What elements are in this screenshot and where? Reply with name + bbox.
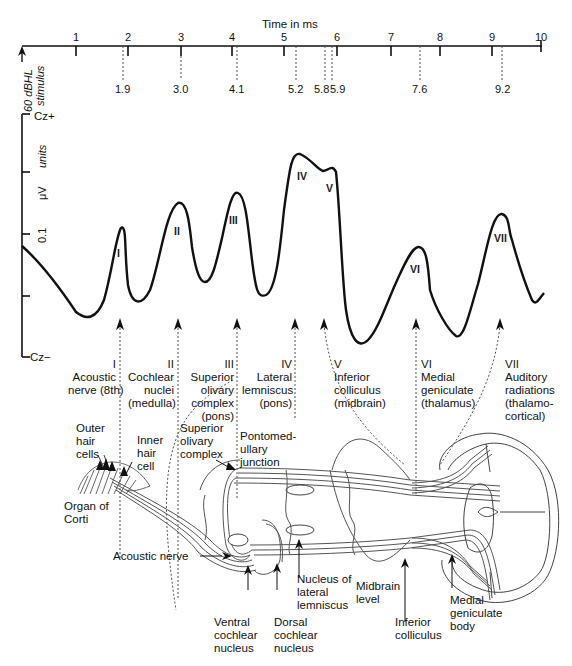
latency-6: 5.9: [330, 83, 345, 96]
label-pontomedullary-junction: Pontomed- ullary junction: [240, 430, 296, 469]
generator-VI: VI Medial geniculate (thalamus): [421, 358, 475, 410]
peak-label-VII: VII: [494, 232, 507, 245]
label-dorsal-cochlear-nucleus: Dorsal cochlear nucleus: [274, 616, 317, 655]
generator-V: V Inferior colliculus (midbrain): [334, 358, 386, 410]
latency-5: 5.8: [314, 83, 329, 96]
peak-label-IV: IV: [297, 170, 307, 183]
cortex-drawing: [440, 433, 559, 602]
time-tick-7: 7: [388, 31, 394, 44]
time-tick-9: 9: [489, 31, 495, 44]
peak-label-III: III: [229, 214, 238, 227]
generator-II: II Cochlear nuclei (medulla): [128, 358, 174, 410]
nuclei-ovals: [228, 485, 314, 546]
label-acoustic-nerve: Acoustic nerve: [113, 550, 188, 563]
label-outer-hair-cells: Outer hair cells: [76, 422, 105, 461]
label-nucleus-lateral-lemniscus: Nucleus of lateral lemniscus: [297, 573, 351, 612]
label-organ-of-corti: Organ of Corti: [64, 500, 109, 526]
peak-label-I: I: [117, 247, 120, 260]
units-label: units: [36, 145, 48, 168]
generator-III: III Superior olivary complex (pons): [186, 358, 234, 423]
time-tick-4: 4: [229, 31, 235, 44]
latency-4: 5.2: [288, 83, 303, 96]
generator-VII: VII Auditory radiations (thalamo- cortic…: [505, 358, 555, 423]
time-tick-8: 8: [437, 31, 443, 44]
microvolt-label: μV: [36, 186, 48, 200]
cz-positive-label: Cz+: [34, 110, 55, 123]
latency-7: 7.6: [412, 83, 427, 96]
label-inner-hair-cell: Inner hair cell: [137, 434, 163, 473]
cz-negative-label: Cz−: [30, 351, 51, 364]
latency-8: 9.2: [495, 83, 510, 96]
label-superior-olivary-complex: Superior olivary complex: [180, 422, 223, 461]
time-tick-1: 1: [73, 31, 79, 44]
time-tick-3: 3: [178, 31, 184, 44]
peak-label-II: II: [174, 225, 180, 238]
abr-diagram-artwork: [0, 0, 572, 666]
stimulus-label: stimulus: [34, 66, 46, 106]
label-medial-geniculate-body: Medial geniculate body: [450, 594, 502, 633]
stimulus-level-label: 60 dBHL: [22, 69, 34, 112]
scale-label: 0.1: [36, 228, 48, 243]
time-axis-label: Time in ms: [262, 18, 318, 31]
latency-3: 4.1: [229, 83, 244, 96]
peak-label-VI: VI: [410, 263, 420, 276]
label-midbrain-level: Midbrain level: [356, 580, 400, 606]
latency-markers: [123, 46, 502, 80]
generator-I: I Acoustic nerve (8th): [68, 358, 116, 397]
voltage-axis: [22, 114, 30, 357]
latency-2: 3.0: [173, 83, 188, 96]
latency-1: 1.9: [115, 83, 130, 96]
time-tick-6: 6: [334, 31, 340, 44]
generator-IV: IV Lateral lemniscus (pons): [242, 358, 292, 410]
label-inferior-colliculus: Inferior colliculus: [395, 616, 442, 642]
label-ventral-cochlear-nucleus: Ventral cochlear nucleus: [214, 616, 257, 655]
time-tick-10: 10: [535, 31, 547, 44]
time-tick-2: 2: [125, 31, 131, 44]
time-tick-5: 5: [281, 31, 287, 44]
abr-waveform: [22, 154, 544, 344]
peak-label-V: V: [326, 182, 333, 195]
